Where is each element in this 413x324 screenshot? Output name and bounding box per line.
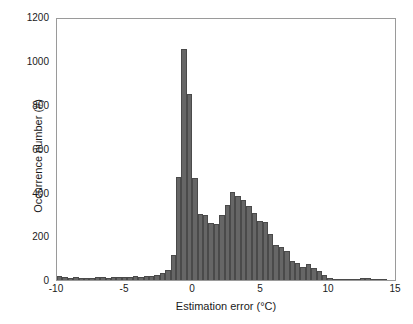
ytick-label-1200: 1200 [27, 13, 49, 23]
plot-area [56, 18, 396, 281]
xtick-label-5: 5 [257, 284, 263, 294]
xtick-label-minus10: -10 [49, 284, 63, 294]
x-axis-label: Estimation error (°C) [56, 300, 396, 312]
xtick-label-15: 15 [389, 284, 400, 294]
y-axis-label: Occurrence number (#) [32, 66, 44, 246]
histogram-bars [57, 19, 395, 280]
xtick-label-minus5: -5 [120, 284, 129, 294]
histogram-figure: 1200 1000 800 600 400 200 0 -10 -5 0 5 1… [0, 0, 413, 324]
xtick-label-0: 0 [189, 284, 195, 294]
histogram-bar [381, 279, 386, 280]
xtick-label-10: 10 [322, 284, 333, 294]
